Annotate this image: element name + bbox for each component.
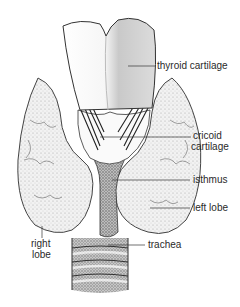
thyroid-illustration: [0, 0, 240, 307]
label-cricoid-cartilage-2: cartilage: [191, 141, 229, 152]
label-trachea: trachea: [148, 239, 181, 250]
label-isthmus: isthmus: [193, 174, 227, 185]
label-cricoid-cartilage-1: cricoid: [193, 130, 222, 141]
thyroid-cartilage-shape: [63, 18, 156, 110]
label-thyroid-cartilage: thyroid cartilage: [157, 60, 228, 71]
label-right-lobe-2: lobe: [32, 249, 51, 260]
label-right-lobe-1: right: [31, 238, 50, 249]
label-left-lobe: left lobe: [193, 202, 228, 213]
trachea-shape: [72, 238, 128, 293]
